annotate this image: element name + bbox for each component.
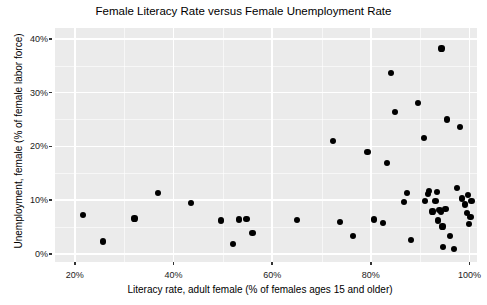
data-point [371, 216, 377, 222]
data-point [249, 230, 255, 236]
data-point [434, 189, 440, 195]
data-point [466, 221, 472, 227]
y-tick-mark [49, 92, 52, 94]
x-tick-label: 40% [148, 270, 198, 280]
gridline-y-minor [55, 173, 477, 174]
y-tick-mark [49, 253, 52, 255]
data-point [100, 238, 106, 244]
gridline-y-minor [55, 227, 477, 228]
x-axis-title: Literacy rate, adult female (% of female… [40, 283, 480, 296]
data-point [457, 124, 463, 130]
gridline-x-major [74, 28, 76, 262]
data-point [451, 246, 457, 252]
data-point [462, 201, 468, 207]
gridline-y-major [55, 92, 477, 94]
data-point [337, 219, 343, 225]
data-point [155, 190, 161, 196]
data-point [438, 45, 444, 51]
gridline-x-major [469, 28, 471, 262]
y-tick-mark [49, 146, 52, 148]
data-point [429, 208, 435, 214]
data-point [465, 192, 471, 198]
data-point [188, 200, 194, 206]
y-axis-title: Unemployment, female (% of female labor … [13, 16, 25, 266]
data-point [401, 199, 407, 205]
data-point [350, 233, 356, 239]
plot-panel [55, 28, 477, 262]
x-tick-mark [271, 262, 273, 265]
data-point [230, 241, 236, 247]
gridline-y-minor [55, 119, 477, 120]
x-tick-mark [74, 262, 76, 265]
data-point [439, 223, 445, 229]
data-point [294, 217, 300, 223]
data-point [364, 149, 370, 155]
data-point [392, 109, 398, 115]
data-point [440, 244, 446, 250]
data-point [80, 212, 86, 218]
data-point [404, 190, 410, 196]
data-point [243, 216, 249, 222]
x-tick-label: 80% [346, 270, 396, 280]
data-point [422, 198, 428, 204]
y-tick-mark [49, 199, 52, 201]
data-point [330, 138, 336, 144]
x-tick-mark [370, 262, 372, 265]
gridline-x-major [271, 28, 273, 262]
data-point [380, 220, 386, 226]
y-tick-mark [49, 38, 52, 40]
x-tick-mark [173, 262, 175, 265]
data-point [442, 206, 448, 212]
gridline-x-major [173, 28, 175, 262]
data-point [388, 70, 394, 76]
x-tick-mark [469, 262, 471, 265]
scatter-chart: Female Literacy Rate versus Female Unemp… [0, 0, 487, 305]
chart-title: Female Literacy Rate versus Female Unemp… [0, 3, 487, 19]
data-point [218, 217, 224, 223]
data-point [454, 185, 460, 191]
gridline-y-minor [55, 66, 477, 67]
data-point [444, 116, 450, 122]
data-point [384, 160, 390, 166]
data-point [131, 215, 137, 221]
gridline-y-major [55, 38, 477, 40]
data-point [468, 198, 474, 204]
x-tick-label: 60% [247, 270, 297, 280]
gridline-y-major [55, 199, 477, 201]
data-point [432, 198, 438, 204]
data-point [426, 188, 432, 194]
data-point [408, 237, 414, 243]
x-tick-label: 100% [445, 270, 487, 280]
data-point [447, 233, 453, 239]
gridline-y-major [55, 146, 477, 148]
gridline-x-major [370, 28, 372, 262]
data-point [421, 135, 427, 141]
gridline-y-major [55, 253, 477, 255]
data-point [236, 216, 242, 222]
x-tick-label: 20% [50, 270, 100, 280]
data-point [467, 214, 473, 220]
